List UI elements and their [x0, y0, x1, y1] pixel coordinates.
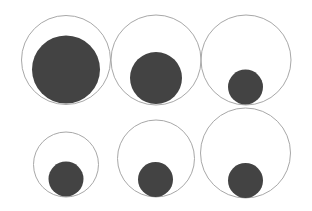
- inner-filled-circle: [130, 52, 182, 104]
- inner-filled-circle: [138, 162, 173, 197]
- inner-filled-circle: [49, 162, 84, 197]
- inner-filled-circle: [228, 163, 263, 198]
- inner-filled-circle: [32, 36, 100, 104]
- circles-diagram: [0, 0, 312, 211]
- inner-filled-circle: [228, 70, 263, 105]
